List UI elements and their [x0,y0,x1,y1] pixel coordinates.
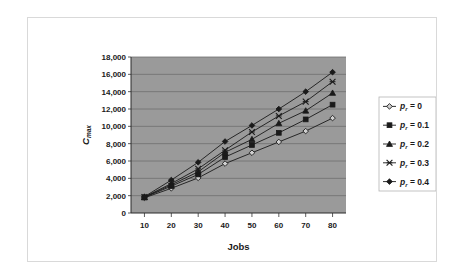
data-marker-filled-square [250,143,255,148]
y-tick-label: 16,000 [102,70,127,79]
y-tick-label: 4,000 [106,174,127,183]
x-tick-label: 70 [301,221,310,230]
y-axis-tick-labels: 02,0004,0006,0008,00010,00012,00014,0001… [102,53,131,218]
data-marker-filled-square [330,102,335,107]
y-tick-label: 8,000 [106,140,127,149]
x-tick-label: 20 [167,221,176,230]
y-tick-label: 14,000 [102,88,127,97]
x-tick-label: 30 [194,221,203,230]
data-marker-filled-square [223,155,228,160]
chart-plot-svg: 02,0004,0006,0008,00010,00012,00014,0001… [28,18,436,261]
x-tick-label: 40 [221,221,230,230]
y-tick-label: 6,000 [106,157,127,166]
data-marker-filled-square [303,117,308,122]
x-axis-tick-labels: 1020304050607080 [140,213,338,230]
y-tick-label: 12,000 [102,105,127,114]
legend-label: pr = 0.1 [399,120,429,131]
data-marker-filled-square [387,123,392,128]
x-tick-label: 80 [328,221,337,230]
y-tick-label: 0 [122,209,127,218]
data-marker-filled-square [276,130,281,135]
x-tick-label: 10 [140,221,149,230]
x-axis-title: Jobs [227,241,249,252]
legend-label: pr = 0.2 [399,139,429,150]
chart-figure: 02,0004,0006,0008,00010,00012,00014,0001… [27,17,437,262]
y-tick-label: 18,000 [102,53,127,62]
legend-label: pr = 0 [399,101,422,112]
x-tick-label: 60 [274,221,283,230]
y-tick-label: 10,000 [102,122,127,131]
legend-label: pr = 0.3 [399,158,429,169]
y-axis-title: Cmax [80,125,92,145]
legend-label: pr = 0.4 [399,177,429,188]
chart-legend: pr = 0pr = 0.1pr = 0.2pr = 0.3pr = 0.4 [379,97,436,191]
x-tick-label: 50 [247,221,256,230]
y-tick-label: 2,000 [106,192,127,201]
